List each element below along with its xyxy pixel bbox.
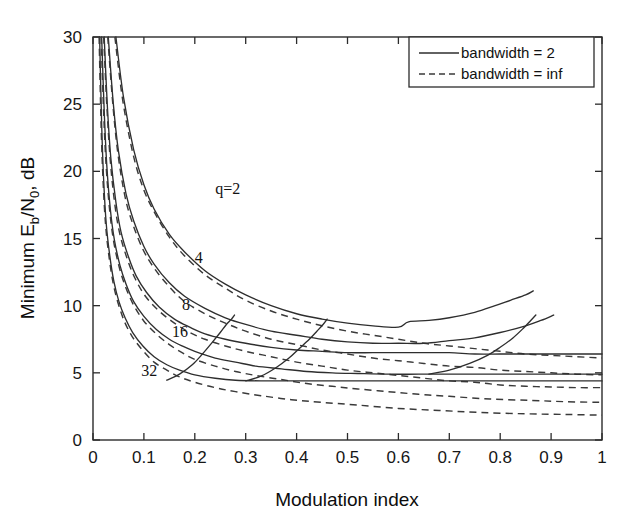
x-tick-label: 0.6 <box>387 448 411 467</box>
curve-label-8: 8 <box>182 296 190 313</box>
x-axis-title: Modulation index <box>275 489 419 510</box>
y-axis-title-main: Minimum E <box>17 224 38 319</box>
x-tick-label: 1 <box>597 448 606 467</box>
y-tick-label: 10 <box>63 297 82 316</box>
x-tick-label: 0.7 <box>437 448 461 467</box>
curve-q-32-bandwidth-inf <box>99 37 602 415</box>
x-tick-label: 0.4 <box>285 448 309 467</box>
chart-figure: 00.10.20.30.40.50.60.70.80.91 0510152025… <box>0 0 635 522</box>
curve-q-16-bandwidth-inf <box>101 37 602 402</box>
curve-label-16: 16 <box>172 323 188 340</box>
y-axis-tick-labels: 051015202530 <box>63 28 82 450</box>
x-tick-label: 0.3 <box>234 448 258 467</box>
y-tick-label: 5 <box>73 364 82 383</box>
y-tick-label: 0 <box>73 431 82 450</box>
x-tick-label: 0.2 <box>183 448 207 467</box>
curve-label-4: 4 <box>195 249 203 266</box>
svg-text:Minimum Eb/N0, dB: Minimum Eb/N0, dB <box>17 157 42 319</box>
y-tick-label: 30 <box>63 28 82 47</box>
legend-label-bandwidth-inf: bandwidth = inf <box>461 65 563 82</box>
y-tick-label: 20 <box>63 162 82 181</box>
x-axis-tick-labels: 00.10.20.30.40.50.60.70.80.91 <box>88 448 606 467</box>
y-tick-label: 25 <box>63 95 82 114</box>
x-tick-label: 0.9 <box>539 448 563 467</box>
curve-label-32: 32 <box>141 362 157 379</box>
x-tick-label: 0.1 <box>132 448 156 467</box>
x-tick-label: 0.5 <box>336 448 360 467</box>
y-axis-title-sub-b: b <box>27 217 42 224</box>
x-tick-label: 0 <box>88 448 97 467</box>
y-axis-title: Minimum Eb/N0, dB <box>17 157 42 319</box>
y-axis-title-tail: , dB <box>17 157 38 191</box>
curve-label-q-2: q=2 <box>215 180 240 198</box>
x-tick-label: 0.8 <box>488 448 512 467</box>
legend[interactable]: bandwidth = 2 bandwidth = inf <box>409 37 594 87</box>
y-tick-label: 15 <box>63 230 82 249</box>
y-axis-title-slash: /N <box>17 198 38 217</box>
chart-canvas: 00.10.20.30.40.50.60.70.80.91 0510152025… <box>0 0 635 522</box>
legend-label-bandwidth-2: bandwidth = 2 <box>461 44 555 61</box>
data-curves <box>99 37 602 415</box>
y-axis-title-sub-0: 0 <box>27 191 42 198</box>
